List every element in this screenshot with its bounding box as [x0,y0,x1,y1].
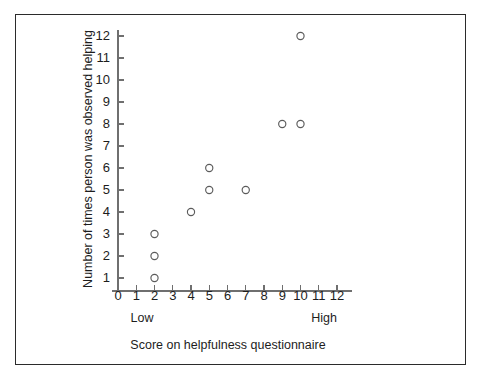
data-point [151,274,158,281]
axes-group [112,30,352,291]
y-axis-ticks [118,36,124,278]
data-point [187,208,194,215]
scatter-plot-canvas [0,0,482,379]
data-point [206,164,213,171]
data-point [279,120,286,127]
data-point [242,186,249,193]
data-point [297,120,304,127]
x-tick-label-12: 12 [324,288,350,303]
data-point-markers [151,32,304,281]
x-axis-high-annotation: High [300,311,348,325]
x-axis-low-annotation: Low [118,311,166,325]
x-axis-title: Score on helpfulness questionnaire [118,338,338,352]
data-point [151,252,158,259]
data-point [151,230,158,237]
y-axis-title: Number of times person was observed help… [81,19,95,299]
data-point [297,32,304,39]
data-point [206,186,213,193]
